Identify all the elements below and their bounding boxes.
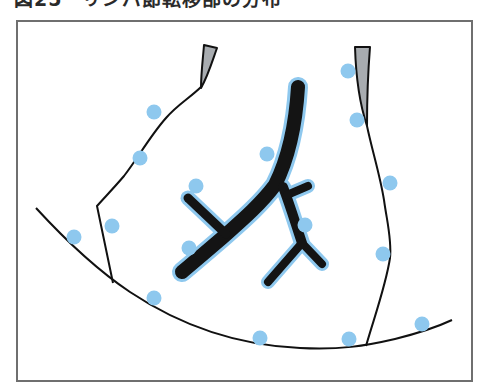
lymph-node-dot (133, 151, 148, 166)
lymph-node-dot (253, 331, 268, 346)
lymph-node-dot (182, 241, 197, 256)
lymph-node-dot (147, 291, 162, 306)
lymph-node-dot (342, 332, 357, 347)
lymph-node-dot (147, 105, 162, 120)
lymph-node-dot (383, 176, 398, 191)
lymph-node-dot (350, 113, 365, 128)
lymph-node-dot (415, 317, 430, 332)
lymph-node-dot (298, 218, 313, 233)
lymph-node-dot (341, 64, 356, 79)
lymph-node-distribution-diagram (0, 0, 487, 389)
lymph-node-dot (376, 247, 391, 262)
lymph-node-dot (67, 230, 82, 245)
lymph-node-dot (105, 219, 120, 234)
left-vessel-wedge (201, 45, 217, 88)
right-contour-line (366, 126, 390, 346)
lymph-node-dot (189, 179, 204, 194)
lymph-node-dot (260, 147, 275, 162)
